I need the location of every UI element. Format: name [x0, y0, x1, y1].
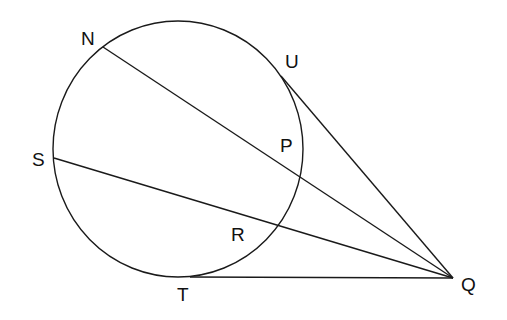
circle	[53, 21, 303, 277]
label-P: P	[280, 135, 293, 156]
geometry-diagram: N U P S R T Q	[0, 0, 507, 320]
label-T: T	[177, 284, 189, 305]
label-R: R	[231, 224, 245, 245]
label-U: U	[285, 51, 299, 72]
tangent-TQ	[190, 277, 453, 278]
tangent-UQ	[281, 76, 453, 278]
label-N: N	[81, 28, 95, 49]
secant-NQ	[103, 47, 453, 278]
secant-SQ	[54, 158, 453, 278]
label-Q: Q	[461, 274, 476, 295]
label-S: S	[32, 149, 45, 170]
